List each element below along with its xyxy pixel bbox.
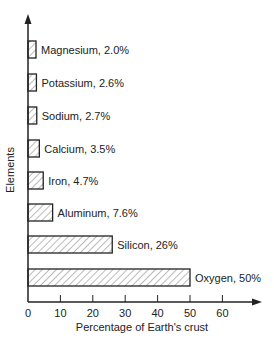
- bar-iron: [28, 172, 43, 189]
- bar-magnesium: [28, 41, 36, 58]
- bar-potassium: [28, 74, 36, 91]
- x-tick-label: 30: [119, 307, 131, 319]
- bar-aluminum: [28, 204, 53, 221]
- x-tick-label: 10: [54, 307, 66, 319]
- data-label-iron: Iron, 4.7%: [48, 175, 98, 187]
- x-ticks-group: 0102030405060: [25, 295, 229, 319]
- data-label-calcium: Calcium, 3.5%: [44, 143, 115, 155]
- bar-chart: Magnesium, 2.0%Potassium, 2.6%Sodium, 2.…: [0, 0, 274, 352]
- data-label-silicon: Silicon, 26%: [117, 239, 178, 251]
- data-label-sodium: Sodium, 2.7%: [42, 110, 111, 122]
- data-label-aluminum: Aluminum, 7.6%: [58, 207, 138, 219]
- x-tick-label: 50: [184, 307, 196, 319]
- x-axis-arrow-icon: [252, 299, 262, 306]
- bar-silicon: [28, 236, 112, 253]
- bar-sodium: [28, 107, 37, 124]
- x-tick-label: 20: [87, 307, 99, 319]
- data-label-magnesium: Magnesium, 2.0%: [41, 44, 129, 56]
- data-label-potassium: Potassium, 2.6%: [41, 77, 124, 89]
- y-axis-label: Elements: [4, 147, 16, 193]
- x-tick-label: 60: [216, 307, 228, 319]
- y-axis-arrow-icon: [25, 14, 32, 24]
- x-tick-label: 0: [25, 307, 31, 319]
- bar-calcium: [28, 140, 39, 157]
- data-label-oxygen: Oxygen, 50%: [195, 272, 261, 284]
- x-axis-label: Percentage of Earth's crust: [76, 321, 208, 333]
- bar-oxygen: [28, 269, 190, 286]
- x-tick-label: 40: [151, 307, 163, 319]
